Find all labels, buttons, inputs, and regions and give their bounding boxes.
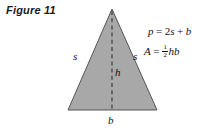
area-lhs: A xyxy=(144,46,151,57)
perimeter-plus: + xyxy=(175,25,186,37)
area-factors: hb xyxy=(168,46,179,57)
label-base: b xyxy=(108,114,114,126)
perimeter-lhs: p xyxy=(148,25,154,37)
label-height: h xyxy=(115,66,121,78)
label-side-left: s xyxy=(73,50,77,62)
triangle-diagram xyxy=(0,0,208,134)
perimeter-base: b xyxy=(186,25,192,37)
area-fraction-numerator: 1 xyxy=(162,44,168,51)
perimeter-equals: = xyxy=(154,25,165,37)
area-fraction-denominator: 2 xyxy=(162,51,168,59)
formula-block: p=2s+b A=12hb xyxy=(144,26,208,60)
area-fraction: 12 xyxy=(162,44,168,60)
area-equals: = xyxy=(151,46,162,57)
formula-perimeter: p=2s+b xyxy=(148,26,208,37)
figure-container: Figure 11 s s h b p=2s+b A=12hb xyxy=(0,0,208,134)
formula-area: A=12hb xyxy=(144,44,208,60)
perimeter-side: s xyxy=(170,25,174,37)
label-side-right: s xyxy=(133,50,137,62)
